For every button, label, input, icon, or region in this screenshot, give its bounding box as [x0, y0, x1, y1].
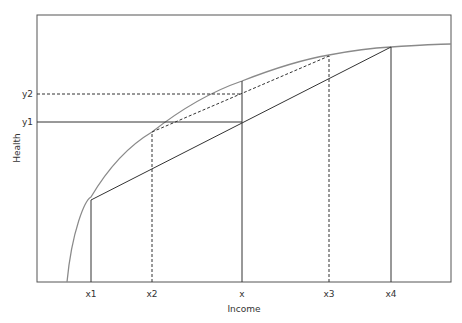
- y-axis-title: Health: [12, 133, 22, 163]
- x-label: x: [239, 289, 245, 299]
- x2-label: x2: [146, 289, 157, 299]
- x1-label: x1: [85, 289, 96, 299]
- health-curve: [67, 44, 451, 282]
- chord-x1-x4: [91, 47, 391, 200]
- x4-label: x4: [385, 289, 396, 299]
- plot-frame: [37, 15, 451, 282]
- y2-label: y2: [22, 89, 33, 99]
- y1-label: y1: [22, 117, 33, 127]
- x-axis-title: Income: [227, 304, 261, 314]
- x3-label: x3: [323, 289, 334, 299]
- health-income-diagram: y2 y1 x1 x2 x x3 x4 Income Health: [0, 0, 462, 323]
